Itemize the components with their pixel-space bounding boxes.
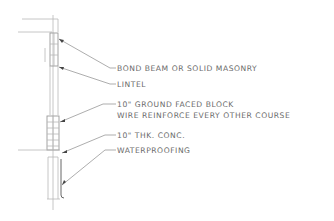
upper-slab [18,19,58,32]
label-concrete: 10" THK. CONC. [117,131,185,140]
ground-faced-block [47,116,59,150]
label-ground-faced-block: 10" GROUND FACED BLOCK [117,100,234,109]
leaders [59,39,116,185]
label-waterproofing: WATERPROOFING [117,146,191,155]
arrowheads [59,39,67,185]
waterproofing-line [61,159,64,198]
wall-section-drawing: BOND BEAM OR SOLID MASONRY LINTEL 10" GR… [0,0,334,221]
label-wire-reinforce: WIRE REINFORCE EVERY OTHER COURSE [117,111,290,120]
label-bond-beam: BOND BEAM OR SOLID MASONRY [117,64,257,73]
concrete-wall [47,157,60,199]
label-lintel: LINTEL [117,80,146,89]
upper-block-course [45,33,58,66]
